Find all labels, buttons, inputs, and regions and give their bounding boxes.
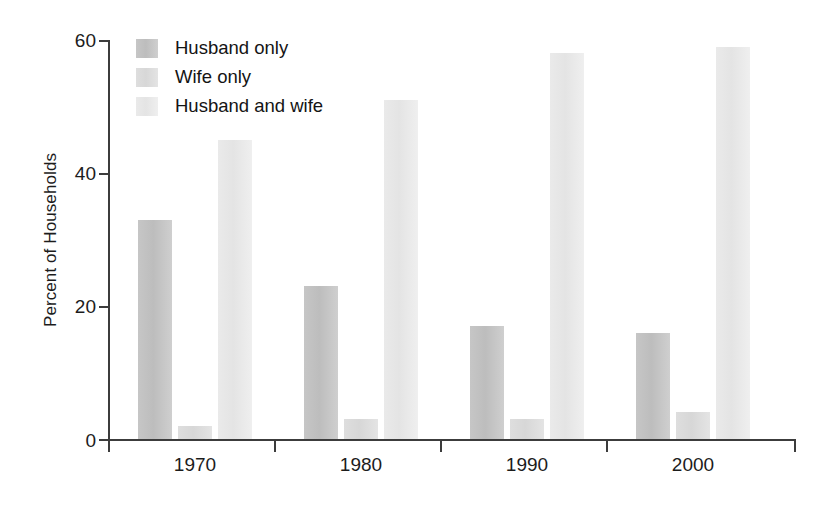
x-tick-mark-2 — [440, 441, 442, 452]
y-tick-mark-60 — [99, 40, 109, 42]
y-tick-label-0: 0 — [52, 431, 96, 450]
x-axis-line — [108, 439, 796, 441]
x-tick-label-1970: 1970 — [135, 455, 255, 474]
y-axis-line — [108, 40, 110, 441]
y-axis-title: Percent of Households — [34, 40, 68, 440]
legend-item-husband-only: Husband only — [136, 34, 323, 63]
legend-item-husband-and-wife: Husband and wife — [136, 92, 323, 121]
bar-1970-wife-only — [178, 426, 212, 439]
x-tick-mark-1 — [274, 441, 276, 452]
legend: Husband only Wife only Husband and wife — [136, 34, 323, 121]
bar-1980-husband-and-wife — [384, 100, 418, 439]
bar-1970-husband-and-wife — [218, 140, 252, 439]
bar-1980-husband-only — [304, 286, 338, 439]
legend-swatch-wife-only — [136, 68, 158, 87]
y-tick-label-60: 60 — [52, 31, 96, 50]
y-tick-mark-20 — [99, 306, 109, 308]
y-tick-label-20: 20 — [52, 297, 96, 316]
bar-2000-wife-only — [676, 412, 710, 439]
x-tick-mark-start — [108, 441, 110, 452]
bar-1990-wife-only — [510, 419, 544, 439]
bar-1980-wife-only — [344, 419, 378, 439]
legend-swatch-husband-and-wife — [136, 97, 158, 116]
bar-2000-husband-and-wife — [716, 47, 750, 439]
x-tick-label-2000: 2000 — [633, 455, 753, 474]
legend-item-wife-only: Wife only — [136, 63, 323, 92]
bar-1970-husband-only — [138, 220, 172, 439]
legend-swatch-husband-only — [136, 39, 158, 58]
legend-label-husband-only: Husband only — [175, 39, 288, 58]
legend-label-husband-and-wife: Husband and wife — [175, 97, 323, 116]
x-tick-label-1990: 1990 — [467, 455, 587, 474]
x-tick-label-1980: 1980 — [301, 455, 421, 474]
y-tick-label-40: 40 — [52, 164, 96, 183]
x-tick-mark-end — [794, 441, 796, 452]
bar-1990-husband-only — [470, 326, 504, 439]
bar-2000-husband-only — [636, 333, 670, 439]
bar-1990-husband-and-wife — [550, 53, 584, 439]
y-tick-mark-40 — [99, 173, 109, 175]
bar-chart: Percent of Households 60 40 20 0 — [0, 0, 820, 513]
x-tick-mark-3 — [606, 441, 608, 452]
legend-label-wife-only: Wife only — [175, 68, 251, 87]
